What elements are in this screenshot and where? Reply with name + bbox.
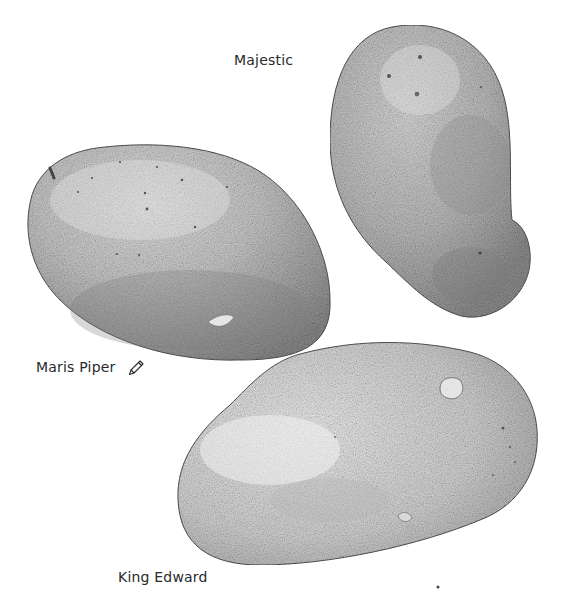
potato-illustration — [0, 0, 565, 616]
label-king-edward: King Edward — [118, 569, 208, 585]
stray-pencil-dot — [437, 586, 440, 589]
potato-majestic — [330, 25, 530, 317]
potato-maris-piper — [28, 145, 330, 360]
label-majestic: Majestic — [234, 52, 293, 68]
pencil-icon — [127, 359, 145, 377]
label-maris-piper: Maris Piper — [36, 359, 116, 375]
potato-king-edward — [178, 343, 537, 566]
